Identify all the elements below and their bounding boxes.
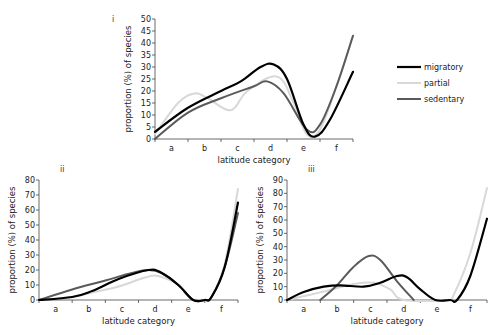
y-tick-label: 45 — [141, 27, 151, 36]
y-tick-label: 10 — [25, 281, 35, 290]
x-tick-label: e — [301, 144, 306, 153]
y-tick-label: 40 — [273, 243, 283, 252]
y-tick-label: 70 — [273, 203, 283, 212]
x-tick-label: f — [335, 144, 338, 153]
panel-label: i — [112, 15, 114, 24]
x-tick-label: b — [334, 305, 339, 314]
x-tick-label: a — [53, 305, 58, 314]
y-axis-title: proportion (%) of species — [255, 186, 265, 294]
x-tick-label: a — [301, 305, 306, 314]
y-tick-label: 50 — [25, 221, 35, 230]
series-migratory-line — [39, 203, 238, 302]
x-tick-label: a — [169, 144, 174, 153]
y-tick-label: 80 — [25, 176, 35, 185]
y-axis-title: proportion (%) of species — [7, 186, 17, 294]
legend: migratorypartialsedentary — [397, 63, 464, 104]
legend-label-partial: partial — [424, 79, 450, 88]
x-tick-label: c — [368, 305, 372, 314]
panel-ii-chart: ii01020304050607080abcdeflatitude catego… — [7, 165, 238, 326]
y-tick-label: 20 — [273, 269, 283, 278]
y-axis-title: proportion (%) of species — [123, 25, 133, 133]
x-tick-label: d — [153, 305, 158, 314]
series-sedentary-line — [320, 255, 413, 300]
y-tick-label: 35 — [141, 51, 151, 60]
y-tick-label: 0 — [278, 296, 283, 305]
x-tick-label: d — [268, 144, 273, 153]
y-tick-label: 20 — [141, 87, 151, 96]
series-partial-line — [287, 188, 487, 301]
y-tick-label: 60 — [273, 216, 283, 225]
y-tick-label: 50 — [273, 229, 283, 238]
y-tick-label: 15 — [141, 99, 151, 108]
x-axis-title: latitude category — [351, 316, 424, 326]
x-tick-label: c — [235, 144, 239, 153]
y-tick-label: 0 — [146, 135, 151, 144]
y-tick-label: 30 — [273, 256, 283, 265]
x-tick-label: c — [120, 305, 124, 314]
x-tick-label: f — [220, 305, 223, 314]
panel-label: iii — [308, 165, 315, 174]
y-tick-label: 0 — [30, 296, 35, 305]
panel-iii-chart: iii0102030405060708090abcdeflatitude cat… — [255, 165, 487, 326]
series-partial-line — [39, 189, 238, 301]
x-axis-title: latitude category — [102, 316, 175, 326]
y-tick-label: 20 — [25, 266, 35, 275]
legend-label-sedentary: sedentary — [424, 95, 464, 104]
x-tick-label: e — [186, 305, 191, 314]
y-tick-label: 80 — [273, 189, 283, 198]
x-tick-label: e — [435, 305, 440, 314]
y-tick-label: 10 — [141, 111, 151, 120]
series-sedentary-line — [39, 213, 238, 301]
y-tick-label: 60 — [25, 206, 35, 215]
x-tick-label: b — [86, 305, 91, 314]
series-migratory-line — [155, 64, 353, 137]
y-tick-label: 70 — [25, 191, 35, 200]
y-tick-label: 30 — [25, 251, 35, 260]
legend-label-migratory: migratory — [424, 63, 464, 72]
panel-label: ii — [60, 165, 64, 174]
y-tick-label: 30 — [141, 63, 151, 72]
y-tick-label: 90 — [273, 176, 283, 185]
y-tick-label: 40 — [141, 39, 151, 48]
x-axis-title: latitude category — [218, 155, 291, 165]
x-tick-label: b — [202, 144, 207, 153]
panel-i-chart: i05101520253035404550abcdeflatitude cate… — [112, 15, 353, 165]
y-tick-label: 10 — [273, 283, 283, 292]
y-tick-label: 50 — [141, 15, 151, 24]
y-tick-label: 5 — [146, 123, 151, 132]
y-tick-label: 25 — [141, 75, 151, 84]
x-tick-label: f — [469, 305, 472, 314]
y-tick-label: 40 — [25, 236, 35, 245]
x-tick-label: d — [401, 305, 406, 314]
figure: i05101520253035404550abcdeflatitude cate… — [0, 0, 502, 335]
